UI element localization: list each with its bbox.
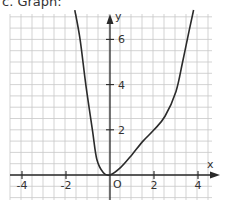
x-tick-label: -2 <box>61 179 72 192</box>
x-tick-label: -4 <box>17 179 28 192</box>
y-tick-label: 2 <box>118 124 125 137</box>
y-tick-label: 4 <box>118 79 125 92</box>
x-axis-arrow-icon <box>210 172 220 179</box>
grid <box>10 14 212 200</box>
x-axis-label: x <box>207 158 214 171</box>
x-tick-label: 4 <box>195 179 202 192</box>
function-curve <box>75 10 194 175</box>
y-axis-label: y <box>115 10 122 23</box>
origin-label: O <box>113 178 122 191</box>
graph: -4-224246 x y O <box>0 0 226 200</box>
y-tick-label: 6 <box>118 33 125 46</box>
x-tick-label: 2 <box>151 179 158 192</box>
y-axis-arrow-icon <box>107 14 114 24</box>
